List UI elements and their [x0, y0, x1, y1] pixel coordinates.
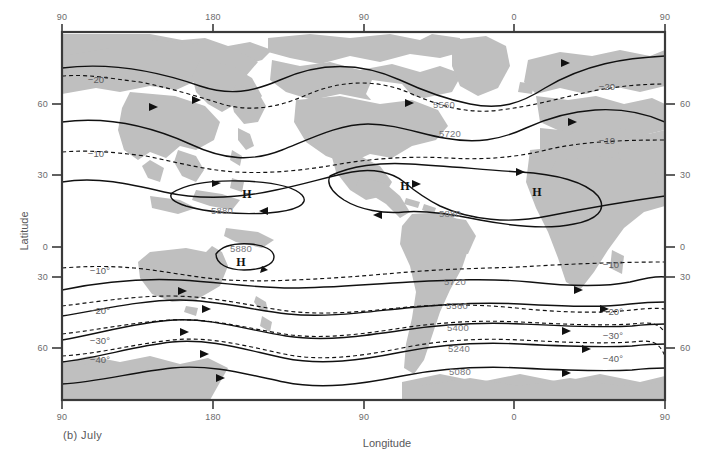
tick-label-left-3: 30 — [34, 272, 48, 282]
figure-caption: (b) July — [63, 429, 102, 441]
height-label-5400-south: 5400 — [447, 322, 469, 333]
tick-label-top-1: 180 — [205, 12, 221, 22]
temp-label-minus10-south-left: −10° — [90, 265, 111, 276]
temp-label-minus40-south-right: −40° — [603, 353, 624, 364]
height-label-5880-pacific: 5880 — [211, 205, 233, 216]
high-marker-pacific: H — [242, 187, 251, 202]
high-marker-south-pacific: H — [236, 255, 245, 270]
temp-label-minus10-north-right: −10 — [599, 135, 616, 146]
tick-label-bottom-0: 90 — [57, 412, 67, 422]
tick-label-right-3: 30 — [680, 272, 690, 282]
tick-label-left-0: 60 — [34, 99, 48, 109]
height-label-5240-south: 5240 — [448, 343, 470, 354]
tick-label-top-2: 90 — [359, 12, 369, 22]
tick-label-top-3: 0 — [511, 12, 516, 22]
height-label-5880-south-pacific: 5880 — [230, 243, 252, 254]
tick-label-left-1: 30 — [34, 170, 48, 180]
height-label-5560-south: 5560 — [446, 300, 468, 311]
high-marker-africa: H — [532, 185, 541, 200]
temp-label-minus40-south-left: −40° — [90, 354, 111, 365]
high-marker-north-america: H — [400, 179, 409, 194]
temp-label-minus20-south-right: −20° — [603, 306, 624, 317]
tick-label-right-4: 60 — [680, 343, 690, 353]
height-label-5880-atlantic: 5880 — [439, 208, 461, 219]
tick-label-bottom-1: 180 — [205, 412, 221, 422]
tick-label-left-2: 0 — [34, 242, 48, 252]
tick-label-bottom-3: 0 — [511, 412, 516, 422]
height-label-5080-south: 5080 — [449, 366, 471, 377]
tick-label-top-0: 90 — [57, 12, 67, 22]
tick-label-bottom-4: 90 — [660, 412, 670, 422]
temp-label-minus10-north-left: −10° — [88, 148, 109, 159]
height-label-5720-north: 5720 — [439, 128, 461, 139]
tick-label-left-4: 60 — [34, 343, 48, 353]
temp-label-minus30-south-right: −30° — [603, 330, 624, 341]
temp-label-minus30-south-left: −30° — [90, 335, 111, 346]
tick-label-right-0: 60 — [680, 99, 690, 109]
height-label-5560-north: 5560 — [433, 99, 455, 110]
map-canvas — [0, 0, 722, 461]
tick-label-top-4: 90 — [660, 12, 670, 22]
july-500mb-contour-map-figure: 90 180 90 0 90 90 180 90 0 90 60 30 0 30… — [0, 0, 722, 461]
y-axis-title: Latitude — [18, 211, 30, 250]
temp-label-minus20-north-left: −20° — [88, 74, 109, 85]
height-label-5720-south: 5720 — [444, 276, 466, 287]
tick-label-right-2: 0 — [680, 242, 685, 252]
temp-label-minus20-north-right: −20 — [599, 81, 616, 92]
temp-label-minus10-south-right: −10° — [603, 259, 624, 270]
tick-label-right-1: 30 — [680, 170, 690, 180]
temp-label-minus20-south-left: −20° — [90, 305, 111, 316]
tick-label-bottom-2: 90 — [359, 412, 369, 422]
x-axis-title: Longitude — [363, 437, 411, 449]
